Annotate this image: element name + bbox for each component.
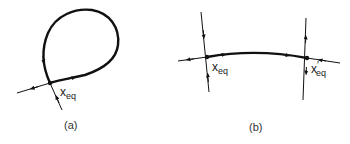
- equilibrium-point: [48, 81, 52, 85]
- caption-b: (b): [249, 122, 262, 133]
- arrow-left-icon: [188, 59, 194, 60]
- homoclinic-loop: [44, 10, 119, 83]
- label-subscript: eq: [66, 91, 76, 101]
- arrow-up-icon: [57, 97, 60, 103]
- equilibrium-label-a: xeq: [60, 86, 76, 98]
- orbit-arrow-icon: [218, 55, 224, 56]
- equilibrium-point-right: [305, 56, 309, 60]
- arrow-left-icon: [320, 60, 326, 61]
- equilibrium-label-b-left: xeq: [212, 61, 228, 73]
- caption-a: (a): [64, 120, 77, 131]
- label-subscript: eq: [316, 68, 326, 78]
- arrow-left-icon: [32, 87, 38, 89]
- panel-b-heteroclinic: [178, 12, 340, 100]
- equilibrium-label-b-right: x′eq: [311, 63, 326, 75]
- loop-arrow-incoming-icon: [43, 56, 44, 62]
- phase-portrait-diagram: [0, 0, 350, 144]
- equilibrium-point-left: [205, 55, 209, 59]
- arrow-down-icon: [203, 30, 204, 37]
- heteroclinic-orbit: [207, 53, 307, 58]
- arrow-up-icon: [208, 75, 209, 82]
- label-subscript: eq: [218, 66, 228, 76]
